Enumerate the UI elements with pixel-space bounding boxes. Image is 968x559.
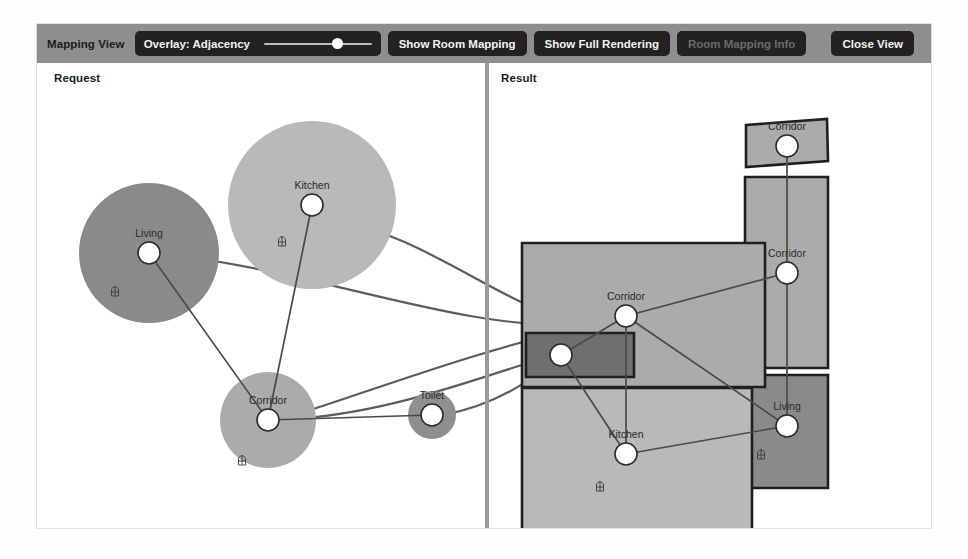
show-room-mapping-button[interactable]: Show Room Mapping [388, 31, 527, 56]
request-node-toilet[interactable]: Toilet [420, 389, 445, 426]
result-room-toilet [526, 333, 634, 377]
overlay-label: Overlay: Adjacency [144, 38, 250, 50]
mapping-view-window: Mapping View Overlay: Adjacency Show Roo… [37, 24, 931, 528]
result-node-ring-corridor-tall [776, 262, 798, 284]
panes: Request Result LivingKitchenCorridorToil… [37, 63, 931, 528]
request-node-ring-living [138, 242, 160, 264]
result-node-label-corridor-tall: Corridor [768, 247, 806, 259]
result-node-label-corridor-main: Corridor [607, 290, 645, 302]
slider-thumb[interactable] [332, 38, 343, 49]
result-node-ring-toilet [550, 344, 572, 366]
result-node-toilet[interactable] [550, 344, 572, 366]
request-node-ring-toilet [421, 404, 443, 426]
toolbar: Mapping View Overlay: Adjacency Show Roo… [37, 24, 931, 63]
show-full-rendering-button[interactable]: Show Full Rendering [534, 31, 670, 56]
pane-divider [485, 63, 489, 528]
overlay-control-group: Overlay: Adjacency [135, 31, 381, 56]
result-node-ring-kitchen [615, 443, 637, 465]
request-node-label-toilet: Toilet [420, 389, 445, 401]
request-node-label-living: Living [135, 227, 163, 239]
close-view-button[interactable]: Close View [831, 31, 914, 56]
request-node-label-corridor: Corridor [249, 394, 287, 406]
result-rooms-group [522, 119, 828, 528]
screen: Mapping View Overlay: Adjacency Show Roo… [0, 0, 968, 559]
diagram-canvas: LivingKitchenCorridorToilet CorridorCorr… [37, 63, 931, 528]
result-node-ring-corridor-main [615, 305, 637, 327]
result-node-ring-living [776, 415, 798, 437]
result-node-label-corridor-top: Corridor [768, 120, 806, 132]
result-node-label-kitchen: Kitchen [608, 428, 643, 440]
request-node-ring-corridor [257, 409, 279, 431]
result-node-ring-corridor-top [776, 135, 798, 157]
result-node-label-living: Living [773, 400, 801, 412]
room-mapping-info-button[interactable]: Room Mapping Info [677, 31, 806, 56]
request-node-label-kitchen: Kitchen [294, 179, 329, 191]
slider-track [264, 43, 372, 45]
request-node-ring-kitchen [301, 194, 323, 216]
toolbar-title: Mapping View [47, 38, 125, 50]
overlay-slider[interactable] [264, 37, 372, 51]
